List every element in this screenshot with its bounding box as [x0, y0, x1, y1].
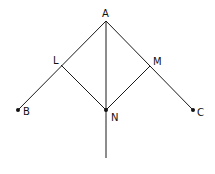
point-n-dot: [104, 108, 108, 112]
label-a: A: [102, 8, 109, 19]
label-m: M: [153, 56, 162, 67]
label-c: C: [197, 107, 204, 118]
segment-mn: [106, 66, 150, 110]
label-b: B: [23, 106, 30, 117]
point-b-dot: [16, 108, 20, 112]
geometry-diagram: A L M B C N: [0, 0, 215, 174]
label-l: L: [53, 55, 59, 66]
segment-ln: [61, 65, 106, 110]
point-c-dot: [191, 108, 195, 112]
label-n: N: [111, 112, 118, 123]
